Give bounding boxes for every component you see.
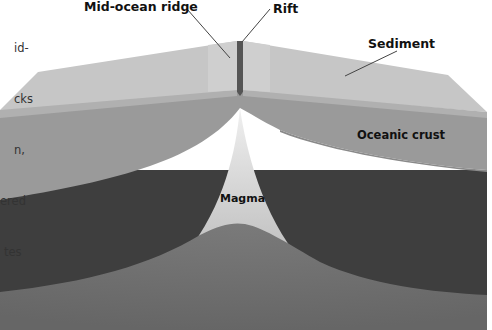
caption-line: n, xyxy=(0,142,33,159)
caption-line: cks xyxy=(0,91,33,108)
caption-line: ered xyxy=(0,193,33,210)
label-oceanic-crust: Oceanic crust xyxy=(357,130,445,142)
caption-line: id- xyxy=(0,40,33,57)
label-mid-ocean-ridge: Mid-ocean ridge xyxy=(84,1,198,14)
mid-ocean-ridge-diagram: id- cks n, ered tes Mid-ocean ridge Rift… xyxy=(0,0,492,330)
label-sediment: Sediment xyxy=(368,38,435,51)
caption-line: tes xyxy=(0,244,33,261)
rift-leader xyxy=(242,9,270,42)
rift-valley xyxy=(237,41,243,96)
label-rift: Rift xyxy=(273,3,298,16)
caption-text-fragment: id- cks n, ered tes xyxy=(0,6,33,295)
label-magma: Magma xyxy=(220,193,265,204)
